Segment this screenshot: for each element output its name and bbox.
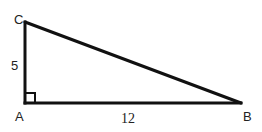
right-triangle-diagram: C A B 5 12 bbox=[0, 0, 262, 132]
side-label-ab: 12 bbox=[121, 111, 135, 126]
vertex-label-a: A bbox=[15, 109, 24, 124]
side-cb-hypotenuse bbox=[25, 22, 241, 103]
side-label-ac: 5 bbox=[11, 58, 18, 73]
vertex-label-b: B bbox=[243, 109, 252, 124]
vertex-label-c: C bbox=[14, 12, 23, 27]
